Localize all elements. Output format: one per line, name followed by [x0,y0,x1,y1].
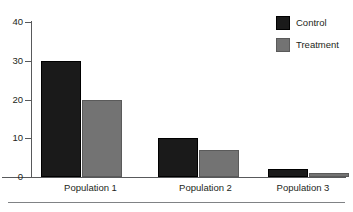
y-axis-label-40: 40 [1,17,23,27]
y-tick-0 [25,177,31,178]
x-axis-label-population-3: Population 3 [258,182,348,193]
y-axis-label-20: 20 [1,95,23,105]
bar-treatment-population-1[interactable] [82,100,122,178]
legend-item-control[interactable]: Control [276,15,339,31]
y-axis-label-10: 10 [1,133,23,143]
legend-swatch-treatment-icon [276,38,290,52]
bar-control-population-2[interactable] [158,138,198,177]
x-axis-line [2,177,346,178]
y-axis-label-30: 30 [1,56,23,66]
bottom-divider-rule [8,202,345,203]
bar-control-population-3[interactable] [268,169,308,177]
bar-control-population-1[interactable] [41,61,81,177]
legend-swatch-control-icon [276,16,290,30]
bar-treatment-population-3[interactable] [309,173,349,177]
y-axis-label-0: 0 [1,172,23,182]
bar-chart-figure: 40 30 20 10 0 Population 1 Population 2 … [0,0,353,212]
x-axis-label-population-1: Population 1 [31,182,150,193]
legend: Control Treatment [276,15,339,59]
bar-treatment-population-2[interactable] [199,150,239,177]
legend-label-control: Control [296,18,327,28]
legend-label-treatment: Treatment [296,40,339,50]
x-axis-label-population-2: Population 2 [148,182,263,193]
legend-item-treatment[interactable]: Treatment [276,37,339,53]
